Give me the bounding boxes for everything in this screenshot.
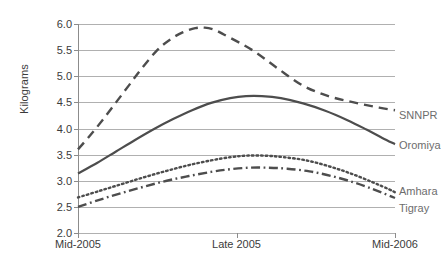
x-axis-tick-label: Mid-2005 — [55, 238, 101, 250]
series-label-oromiya: Oromiya — [399, 139, 441, 151]
series-label-tigray: Tigray — [399, 202, 429, 214]
x-axis-tick-label: Late 2005 — [212, 238, 261, 250]
series-label-amhara: Amhara — [399, 185, 438, 197]
series-label-snnpr: SNNPR — [399, 109, 438, 121]
series-line-oromiya — [78, 96, 395, 174]
series-line-snnpr — [78, 28, 395, 150]
x-axis-tick-label: Mid-2006 — [372, 238, 418, 250]
series-line-amhara — [78, 155, 395, 197]
